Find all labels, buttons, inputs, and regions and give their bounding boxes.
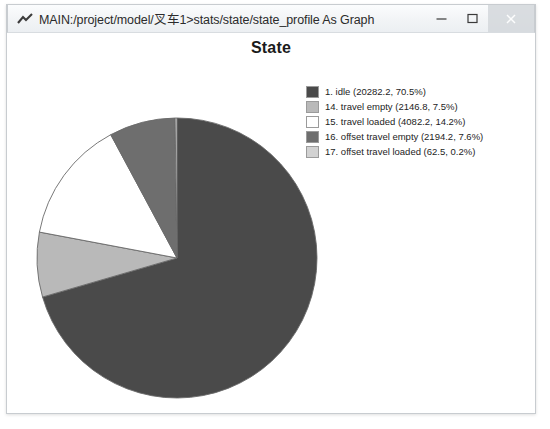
legend-label: 16. offset travel empty (2194.2, 7.6%) [325,131,483,142]
close-icon[interactable] [488,5,534,32]
chart-app-icon [17,12,33,28]
legend-swatch [306,131,319,143]
legend-swatch [306,101,319,113]
window-title: MAIN:/project/model/叉车1>stats/state/stat… [39,9,426,28]
chart-legend: 1. idle (20282.2, 70.5%)14. travel empty… [306,85,521,160]
legend-item: 1. idle (20282.2, 70.5%) [306,85,521,99]
legend-item: 15. travel loaded (4082.2, 14.2%) [306,115,521,129]
legend-item: 16. offset travel empty (2194.2, 7.6%) [306,130,521,144]
graph-client-area: State 1. idle (20282.2, 70.5%)14. travel… [7,33,535,413]
legend-item: 17. offset travel loaded (62.5, 0.2%) [306,145,521,159]
legend-label: 17. offset travel loaded (62.5, 0.2%) [325,146,475,157]
pie-chart [7,33,327,414]
graph-window: MAIN:/project/model/叉车1>stats/state/stat… [6,4,536,414]
legend-label: 14. travel empty (2146.8, 7.5%) [325,101,458,112]
legend-swatch [306,146,319,158]
window-controls [426,5,534,32]
pie-chart-svg [7,33,327,414]
legend-item: 14. travel empty (2146.8, 7.5%) [306,100,521,114]
minimize-icon[interactable] [426,5,457,32]
legend-swatch [306,116,319,128]
legend-swatch [306,86,319,98]
legend-label: 15. travel loaded (4082.2, 14.2%) [325,116,465,127]
maximize-icon[interactable] [457,5,488,32]
window-titlebar[interactable]: MAIN:/project/model/叉车1>stats/state/stat… [7,4,535,33]
legend-label: 1. idle (20282.2, 70.5%) [325,86,426,97]
